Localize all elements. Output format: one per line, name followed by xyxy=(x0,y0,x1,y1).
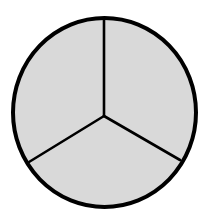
circle-divided-in-thirds-diagram xyxy=(0,0,199,218)
